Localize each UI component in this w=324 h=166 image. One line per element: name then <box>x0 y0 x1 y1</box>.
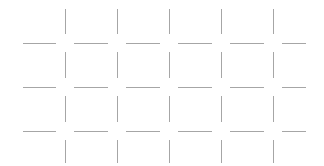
grid-horizontal-dash <box>126 87 160 88</box>
grid-horizontal-dash <box>178 131 212 132</box>
grid-horizontal-dash <box>230 87 264 88</box>
grid-horizontal-dash <box>230 131 264 132</box>
grid-horizontal-dash <box>178 43 212 44</box>
grid-vertical-tick <box>221 96 222 122</box>
grid-vertical-tick <box>221 9 222 34</box>
grid-horizontal-dash <box>74 43 108 44</box>
grid-horizontal-dash <box>282 87 306 88</box>
grid-vertical-tick <box>169 52 170 78</box>
grid-horizontal-dash <box>282 131 306 132</box>
grid-vertical-tick <box>117 9 118 34</box>
grid-vertical-tick <box>169 9 170 34</box>
grid-horizontal-dash <box>23 87 56 88</box>
grid-vertical-tick <box>117 140 118 163</box>
grid-vertical-tick <box>273 140 274 163</box>
grid-horizontal-dash <box>74 87 108 88</box>
grid-vertical-tick <box>221 140 222 163</box>
grid-vertical-tick <box>65 96 66 122</box>
grid-vertical-tick <box>65 52 66 78</box>
grid-vertical-tick <box>117 96 118 122</box>
grid-horizontal-dash <box>178 87 212 88</box>
grid-vertical-tick <box>273 9 274 34</box>
grid-vertical-tick <box>273 52 274 78</box>
grid-canvas <box>0 0 324 166</box>
grid-vertical-tick <box>65 140 66 163</box>
grid-horizontal-dash <box>126 131 160 132</box>
grid-horizontal-dash <box>282 43 306 44</box>
grid-vertical-tick <box>221 52 222 78</box>
grid-vertical-tick <box>273 96 274 122</box>
grid-horizontal-dash <box>230 43 264 44</box>
grid-vertical-tick <box>117 52 118 78</box>
grid-vertical-tick <box>169 96 170 122</box>
grid-horizontal-dash <box>126 43 160 44</box>
grid-horizontal-dash <box>23 43 56 44</box>
grid-vertical-tick <box>65 9 66 34</box>
grid-horizontal-dash <box>74 131 108 132</box>
grid-vertical-tick <box>169 140 170 163</box>
grid-horizontal-dash <box>23 131 56 132</box>
